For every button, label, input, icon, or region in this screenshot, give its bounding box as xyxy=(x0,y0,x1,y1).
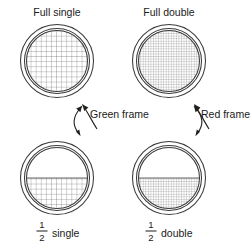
fraction-numerator-half-double: 1 xyxy=(148,219,153,230)
fraction-suffix-half-double: double xyxy=(161,227,193,239)
green-frame-label: Green frame xyxy=(90,108,149,120)
fraction-suffix-half-single: single xyxy=(52,227,80,239)
mesh-area-half-double xyxy=(134,178,204,212)
panel-label-half-single: 1 2 single xyxy=(37,219,80,243)
arrowhead-up-left xyxy=(76,106,82,112)
panel-full-single: Full single xyxy=(21,6,94,98)
panel-label-full-double: Full double xyxy=(143,6,195,18)
panel-label-full-single: Full single xyxy=(33,6,80,18)
red-frame-label: Red frame xyxy=(201,108,250,120)
fraction-denominator-half-single: 2 xyxy=(39,232,44,243)
fraction-numerator-half-single: 1 xyxy=(39,219,44,230)
left-frame-arrow xyxy=(74,106,82,136)
panel-half-single: 1 2 single xyxy=(21,142,94,244)
mesh-frame-diagram: Full single Full double xyxy=(0,0,252,248)
panel-label-half-double: 1 2 double xyxy=(146,219,193,243)
panel-half-double: 1 2 double xyxy=(133,142,206,244)
panel-full-double: Full double xyxy=(133,6,206,98)
fraction-denominator-half-double: 2 xyxy=(148,232,153,243)
mesh-area-half-single xyxy=(22,178,92,212)
